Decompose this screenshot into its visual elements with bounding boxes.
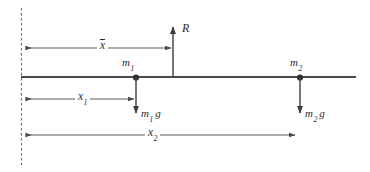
dimension-label-xbar: x (97, 39, 108, 52)
mass-label-m1: m1 (122, 57, 134, 71)
dimension-label-x1: x1 (75, 91, 90, 105)
physics-free-body-diagram: R x m1 m2 x1 m1g m2g x2 (0, 0, 370, 172)
mass-label-m2: m2 (290, 57, 302, 71)
weight-label-m2g: m2g (305, 108, 325, 122)
reaction-force-label: R (182, 22, 189, 34)
dimension-label-x2: x2 (145, 127, 160, 141)
weight-label-m1g: m1g (141, 108, 161, 122)
